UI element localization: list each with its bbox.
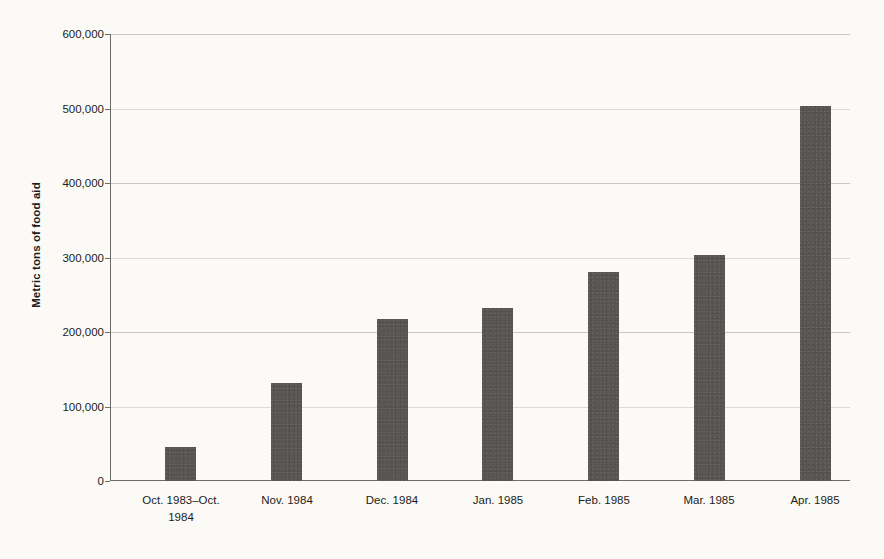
y-axis-tick-label: 400,000 <box>46 177 104 189</box>
x-axis-tick-label: Dec. 1984 <box>339 492 445 509</box>
y-axis-tick-mark <box>105 407 110 408</box>
y-axis-tick-label: 300,000 <box>46 252 104 264</box>
y-axis-title: Metric tons of food aid <box>24 0 48 490</box>
plot-area <box>110 34 850 481</box>
x-axis-tick-label: Nov. 1984 <box>234 492 340 509</box>
y-axis-tick-mark <box>105 481 110 482</box>
y-axis-tick-mark <box>105 332 110 333</box>
y-axis-tick-labels: 0100,000200,000300,000400,000500,000600,… <box>46 34 104 481</box>
y-axis-tick-label: 500,000 <box>46 103 104 115</box>
y-axis-tick-mark <box>105 183 110 184</box>
y-axis-title-label: Metric tons of food aid <box>30 182 42 308</box>
x-axis-tick-label: Jan. 1985 <box>445 492 551 509</box>
bar <box>165 447 196 481</box>
x-axis-tick-label: Mar. 1985 <box>656 492 762 509</box>
y-axis-tick-label: 100,000 <box>46 401 104 413</box>
x-axis-tick-label: Oct. 1983–Oct. 1984 <box>128 492 234 526</box>
bar <box>588 272 619 481</box>
bar-chart-figure: Metric tons of food aid 0100,000200,0003… <box>0 0 884 559</box>
bar <box>482 308 513 481</box>
bars-group <box>110 34 850 481</box>
bar <box>800 106 831 481</box>
bar <box>694 255 725 481</box>
y-axis-tick-mark <box>105 258 110 259</box>
x-axis-tick-label: Apr. 1985 <box>762 492 868 509</box>
x-axis-tick-labels: Oct. 1983–Oct. 1984Nov. 1984Dec. 1984Jan… <box>110 492 850 552</box>
x-axis-tick-label: Feb. 1985 <box>551 492 657 509</box>
y-axis-tick-mark <box>105 109 110 110</box>
y-axis-tick-label: 600,000 <box>46 28 104 40</box>
y-axis-tick-mark <box>105 34 110 35</box>
y-axis-tick-label: 0 <box>46 475 104 487</box>
y-axis-tick-label: 200,000 <box>46 326 104 338</box>
bar <box>377 319 408 481</box>
bar <box>271 383 302 481</box>
